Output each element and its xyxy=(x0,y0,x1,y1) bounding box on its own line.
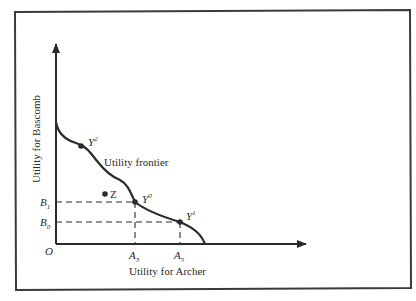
figure-frame xyxy=(15,11,211,171)
label-y1: Y1 xyxy=(186,209,196,222)
guide-lines xyxy=(56,202,180,244)
label-z: Z xyxy=(110,188,117,200)
point-y2 xyxy=(78,143,84,149)
utility-frontier-curve xyxy=(56,122,205,244)
figure-border xyxy=(15,10,411,290)
y-axis-label: Utility for Bascomb xyxy=(30,95,42,183)
point-y1 xyxy=(177,219,183,225)
point-z xyxy=(102,191,108,197)
curve-label: Utility frontier xyxy=(104,156,169,168)
origin-label: O xyxy=(45,245,53,257)
tick-b1: B1 xyxy=(40,196,50,211)
label-y0: Y0 xyxy=(142,192,152,205)
tick-a3: A3 xyxy=(128,249,140,264)
tick-a5: A5 xyxy=(173,249,185,264)
label-y2: Y2 xyxy=(88,135,98,148)
tick-b0: B0 xyxy=(40,216,51,231)
point-y0 xyxy=(132,199,138,205)
utility-frontier-diagram: Y2 Y0 Y1 Z Utility frontier B1 B0 O A3 A… xyxy=(0,0,416,301)
x-axis-label: Utility for Archer xyxy=(129,265,206,277)
